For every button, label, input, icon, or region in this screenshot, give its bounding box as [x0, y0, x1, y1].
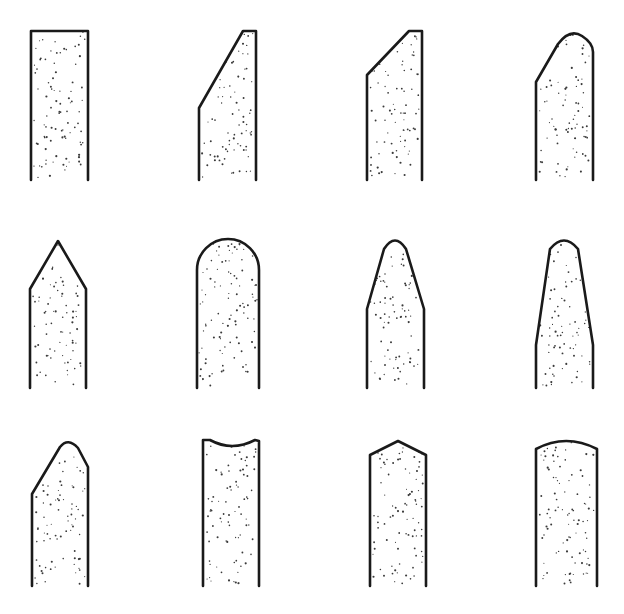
shape-fill-4 [536, 33, 593, 180]
shape-fills [30, 31, 597, 586]
shape-fill-3 [367, 31, 422, 180]
shape-fill-12 [536, 441, 597, 586]
shape-fill-10 [203, 440, 259, 586]
profile-diagram [0, 0, 624, 614]
shape-fill-6 [197, 239, 259, 388]
shape-outlines [30, 31, 597, 586]
stipple-dots [2, 0, 594, 585]
shape-fill-11 [370, 441, 426, 586]
shape-fill-5 [30, 241, 86, 388]
shape-fill-8 [536, 241, 593, 389]
